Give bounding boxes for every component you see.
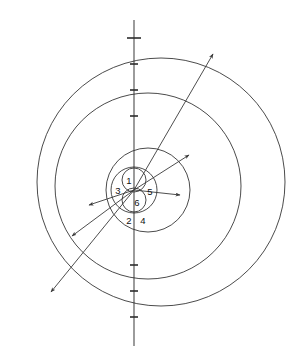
r-mid-upper-right <box>134 155 189 190</box>
label-4: 4 <box>140 215 145 226</box>
r-outer-upper-right <box>134 54 213 190</box>
label-2: 2 <box>126 215 131 226</box>
r-outer-lower-left <box>51 190 134 292</box>
label-3: 3 <box>115 185 120 196</box>
label-5: 5 <box>147 186 152 197</box>
label-1: 1 <box>126 175 131 186</box>
label-6: 6 <box>134 197 139 208</box>
circle-4 <box>37 58 285 306</box>
circle-group <box>37 58 285 306</box>
r-mid-lower-left <box>72 190 134 236</box>
circles-diagram: 135624 <box>0 0 299 359</box>
